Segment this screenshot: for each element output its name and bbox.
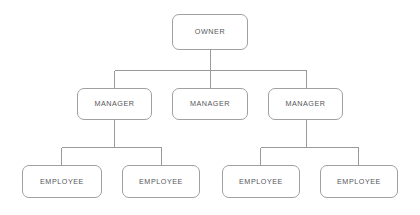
node-employee-4-label: EMPLOYEE [337, 178, 381, 185]
node-manager-3[interactable]: MANAGER [268, 88, 343, 120]
node-employee-2-label: EMPLOYEE [139, 178, 183, 185]
node-employee-2[interactable]: EMPLOYEE [122, 165, 200, 198]
node-manager-2-label: MANAGER [190, 100, 230, 107]
node-manager-1[interactable]: MANAGER [77, 88, 152, 120]
node-owner-label: OWNER [195, 28, 225, 35]
node-employee-3-label: EMPLOYEE [239, 178, 283, 185]
node-manager-1-label: MANAGER [94, 100, 134, 107]
node-employee-1-label: EMPLOYEE [40, 178, 84, 185]
node-manager-2[interactable]: MANAGER [172, 88, 248, 120]
node-employee-3[interactable]: EMPLOYEE [222, 165, 300, 198]
node-employee-1[interactable]: EMPLOYEE [22, 165, 102, 198]
node-owner[interactable]: OWNER [172, 14, 248, 50]
node-employee-4[interactable]: EMPLOYEE [320, 165, 398, 198]
org-chart-canvas: OWNER MANAGER MANAGER MANAGER EMPLOYEE E… [0, 0, 420, 215]
node-manager-3-label: MANAGER [285, 100, 325, 107]
